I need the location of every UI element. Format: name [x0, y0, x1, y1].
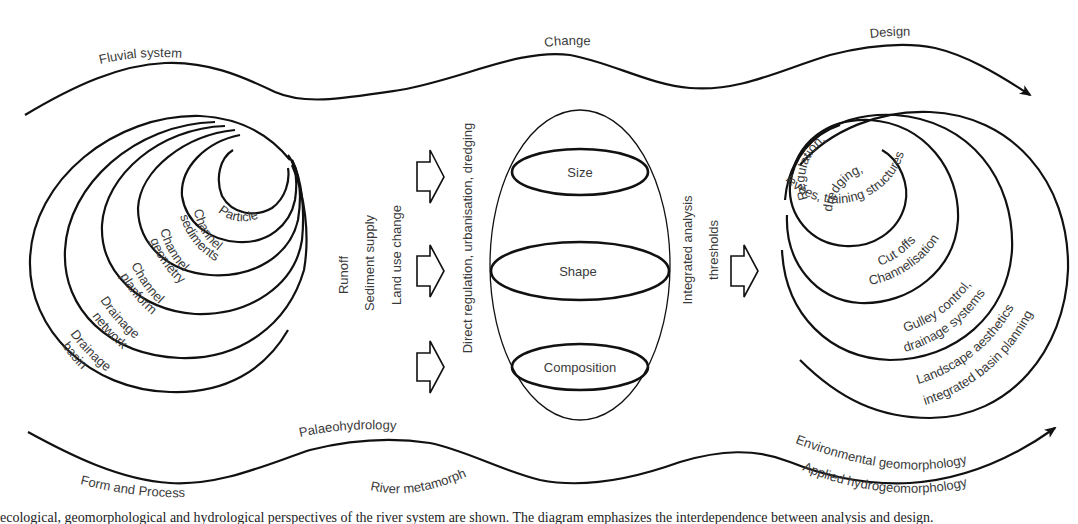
input-arrow-2 — [417, 245, 444, 297]
label-shape: Shape — [559, 264, 597, 279]
input-arrow-1 — [417, 150, 444, 203]
bottom-flow-arrow — [28, 428, 1055, 483]
input-arrow-3 — [417, 341, 444, 393]
output-arrow — [731, 245, 758, 297]
label-land-use-change: Land use change — [389, 205, 404, 305]
label-integrated-analysis: Integrated analysis — [680, 195, 695, 305]
label-design: Design — [869, 24, 911, 41]
figure-caption-fragment: ecological, geomorphological and hydrolo… — [0, 510, 1078, 524]
label-direct-regulation: Direct regulation, urbanisation, dredgin… — [460, 123, 475, 354]
label-palaeohydrology: Palaeohydrology — [298, 417, 398, 440]
label-sediment-supply: Sediment supply — [362, 214, 377, 311]
label-runoff: Runoff — [336, 256, 351, 294]
label-integrated-basin-planning: integrated basin planning — [921, 308, 1035, 408]
label-size: Size — [567, 165, 592, 180]
label-composition: Composition — [544, 360, 616, 375]
label-particle: Particle — [216, 202, 260, 224]
label-thresholds: thresholds — [706, 220, 721, 280]
label-change: Change — [543, 33, 591, 50]
